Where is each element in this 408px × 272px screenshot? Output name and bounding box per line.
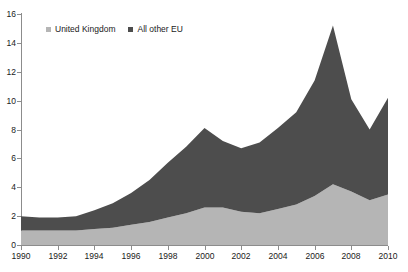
x-tick-1992	[58, 246, 59, 250]
x-tick-label-1990: 1990	[4, 252, 38, 261]
x-tick-label-1994: 1994	[77, 252, 111, 261]
y-tick-label-6: 6	[11, 154, 16, 163]
y-tick-label-10: 10	[7, 97, 16, 106]
x-tick-1990	[21, 246, 22, 250]
x-tick-1998	[168, 246, 169, 250]
x-tick-label-1998: 1998	[151, 252, 185, 261]
x-tick-1996	[131, 246, 132, 250]
y-tick-label-4: 4	[11, 183, 16, 192]
x-tick-2002	[241, 246, 242, 250]
y-tick-label-8: 8	[11, 126, 16, 135]
plot-area	[21, 14, 388, 245]
x-tick-2010	[388, 246, 389, 250]
x-tick-label-1992: 1992	[41, 252, 75, 261]
x-tick-label-2000: 2000	[188, 252, 222, 261]
x-tick-label-1996: 1996	[114, 252, 148, 261]
x-tick-1994	[94, 246, 95, 250]
x-tick-2008	[351, 246, 352, 250]
x-tick-label-2010: 2010	[371, 252, 405, 261]
x-tick-label-2004: 2004	[261, 252, 295, 261]
x-tick-label-2006: 2006	[298, 252, 332, 261]
y-tick-label-2: 2	[11, 212, 16, 221]
y-tick-label-16: 16	[7, 10, 16, 19]
area-series-group	[21, 14, 388, 245]
y-tick-label-0: 0	[11, 241, 16, 250]
x-tick-label-2008: 2008	[334, 252, 368, 261]
y-tick-label-12: 12	[7, 68, 16, 77]
x-tick-label-2002: 2002	[224, 252, 258, 261]
x-tick-2004	[278, 246, 279, 250]
x-tick-2000	[205, 246, 206, 250]
stacked-area-chart: 0246810121416 19901992199419961998200020…	[0, 0, 408, 272]
y-tick-label-14: 14	[7, 39, 16, 48]
x-tick-2006	[315, 246, 316, 250]
